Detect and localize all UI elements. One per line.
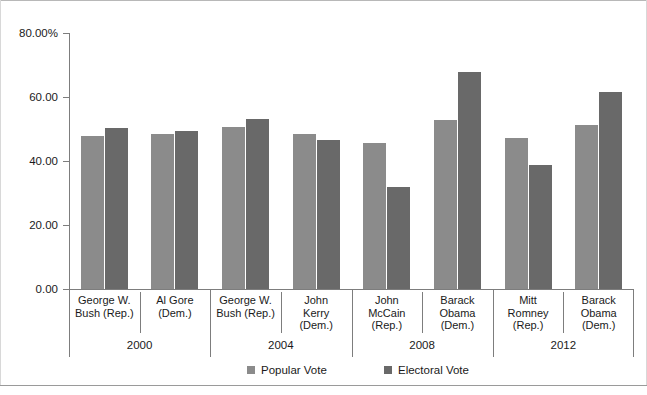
candidate-label: BarackObama(Dem.) — [422, 290, 493, 335]
year-separator — [493, 335, 494, 357]
plot-area — [69, 33, 634, 289]
candidate-label-line: Al Gore — [140, 294, 211, 307]
candidate-label: MittRomney(Rep.) — [493, 290, 564, 335]
category-separator — [210, 290, 211, 335]
year-separator — [633, 335, 634, 357]
frame-top-border — [0, 0, 647, 1]
candidate-label: JohnKerry(Dem.) — [281, 290, 352, 335]
candidate-label-line: John — [352, 294, 423, 307]
candidate-label: BarackObama(Dem.) — [563, 290, 634, 335]
legend-label-popular-vote: Popular Vote — [261, 364, 327, 376]
bar-electoral-vote — [599, 92, 622, 289]
bar-electoral-vote — [317, 140, 340, 289]
bar-electoral-vote — [529, 165, 552, 289]
candidate-label-line: (Dem.) — [140, 307, 211, 320]
y-axis-tick-label: 0.00 — [0, 283, 58, 295]
legend-label-electoral-vote: Electoral Vote — [398, 364, 469, 376]
frame-left-border — [0, 0, 1, 386]
year-separator — [69, 335, 70, 357]
candidate-label-line: Obama — [422, 307, 493, 320]
bar-popular-vote — [151, 134, 174, 289]
candidate-label-line: (Dem.) — [422, 319, 493, 332]
candidate-label-line: Bush (Rep.) — [69, 307, 140, 320]
year-separator — [352, 335, 353, 357]
legend-item-electoral-vote: Electoral Vote — [384, 363, 469, 377]
candidate-label-line: McCain — [352, 307, 423, 320]
year-separator — [210, 335, 211, 357]
bar-electoral-vote — [458, 72, 481, 289]
bar-popular-vote — [363, 143, 386, 289]
year-label-band: 2000200420082012 — [69, 335, 634, 357]
candidate-label-line: (Dem.) — [563, 319, 634, 332]
year-label: 2008 — [352, 335, 493, 357]
candidate-label-line: George W. — [69, 294, 140, 307]
year-label: 2000 — [69, 335, 210, 357]
bar-popular-vote — [222, 127, 245, 289]
y-axis-tick-label: 80.00% — [0, 27, 58, 39]
candidate-label-line: Mitt — [493, 294, 564, 307]
bar-popular-vote — [575, 125, 598, 289]
candidate-label-line: (Dem.) — [281, 319, 352, 332]
category-separator — [563, 292, 564, 333]
bar-popular-vote — [434, 120, 457, 289]
candidate-label-band: George W.Bush (Rep.)Al Gore(Dem.)George … — [69, 290, 634, 335]
category-separator — [493, 290, 494, 335]
bar-popular-vote — [293, 134, 316, 289]
bar-popular-vote — [81, 136, 104, 289]
candidate-label-line: Bush (Rep.) — [210, 307, 281, 320]
legend-swatch-popular-vote — [247, 366, 255, 374]
y-axis-tick-label: 20.00 — [0, 219, 58, 231]
candidate-label-line: Romney — [493, 307, 564, 320]
category-separator — [69, 290, 70, 335]
year-label: 2004 — [210, 335, 351, 357]
category-separator — [281, 292, 282, 333]
chart-page: 0.0020.0040.0060.0080.00% George W.Bush … — [0, 0, 647, 395]
candidate-label-line: John — [281, 294, 352, 307]
bar-electoral-vote — [175, 131, 198, 289]
legend-swatch-electoral-vote — [384, 366, 392, 374]
category-separator — [140, 292, 141, 333]
y-axis-tick-label: 60.00 — [0, 91, 58, 103]
category-separator — [422, 292, 423, 333]
candidate-label-line: Obama — [563, 307, 634, 320]
candidate-label: Al Gore(Dem.) — [140, 290, 211, 335]
candidate-label-line: Barack — [422, 294, 493, 307]
bar-electoral-vote — [387, 187, 410, 289]
bar-electoral-vote — [105, 128, 128, 289]
bar-popular-vote — [505, 138, 528, 289]
legend-item-popular-vote: Popular Vote — [247, 363, 327, 377]
y-axis-tick-label: 40.00 — [0, 155, 58, 167]
frame-bottom-border — [0, 385, 647, 386]
candidate-label: George W.Bush (Rep.) — [69, 290, 140, 335]
bar-electoral-vote — [246, 119, 269, 289]
candidate-label-line: George W. — [210, 294, 281, 307]
candidate-label: JohnMcCain(Rep.) — [352, 290, 423, 335]
year-label: 2012 — [493, 335, 634, 357]
candidate-label-line: (Rep.) — [493, 319, 564, 332]
candidate-label-line: Kerry — [281, 307, 352, 320]
candidate-label: George W.Bush (Rep.) — [210, 290, 281, 335]
candidate-label-line: (Rep.) — [352, 319, 423, 332]
category-separator — [352, 290, 353, 335]
category-separator — [633, 290, 634, 335]
candidate-label-line: Barack — [563, 294, 634, 307]
